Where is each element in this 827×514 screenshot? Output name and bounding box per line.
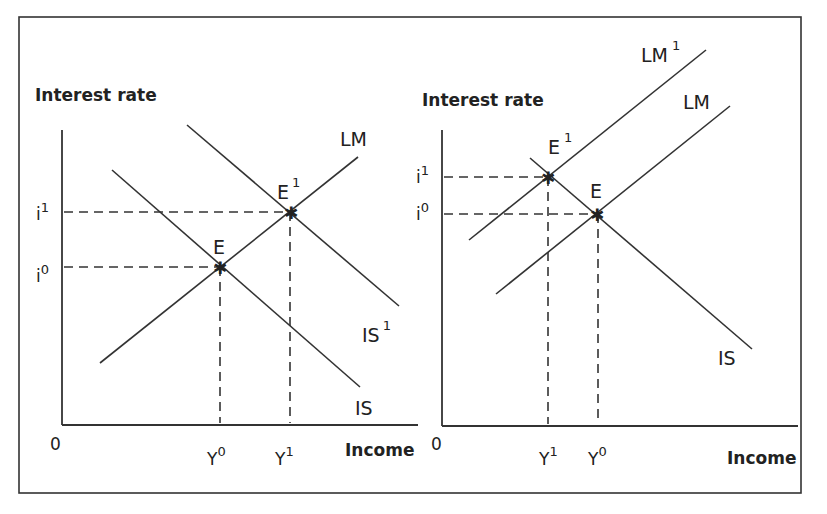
right-is-label: IS (718, 347, 736, 369)
left-x-axis-title: Income (345, 440, 414, 460)
left-origin-label: 0 (50, 434, 61, 454)
left-xtick-y1: Y1 (274, 444, 294, 469)
right-lm-curve (496, 106, 730, 294)
left-point-e-label: E (213, 236, 225, 258)
right-is-curve (530, 158, 752, 349)
right-ytick-i1: i1 (416, 163, 429, 187)
right-y-axis-title: Interest rate (422, 90, 544, 110)
left-panel: Interest rate 0 Income ✱ ✱ i1 i0 Y0 Y1 L… (35, 85, 418, 469)
left-lm-label: LM (340, 128, 367, 150)
left-ytick-i1: i1 (36, 200, 49, 224)
is-lm-diagram: Interest rate 0 Income ✱ ✱ i1 i0 Y0 Y1 L… (0, 0, 827, 514)
right-lm-label: LM (683, 91, 710, 113)
right-point-e1-label: E1 (548, 130, 572, 158)
right-origin-label: 0 (431, 434, 442, 454)
right-xtick-y0: Y0 (587, 444, 607, 469)
left-e-marker-icon: ✱ (213, 258, 227, 278)
right-x-axis-title: Income (727, 448, 796, 468)
right-e-marker-icon: ✱ (590, 205, 604, 225)
right-lm1-label: LM1 (641, 38, 680, 66)
left-y-axis-title: Interest rate (35, 85, 157, 105)
left-ytick-i0: i0 (36, 262, 49, 286)
left-point-e1-label: E1 (277, 175, 300, 203)
left-is-label: IS (355, 397, 373, 419)
left-e1-marker-icon: ✱ (284, 203, 298, 223)
left-is-curve (112, 170, 360, 387)
right-ytick-i0: i0 (416, 200, 429, 224)
left-is1-label: IS1 (362, 318, 391, 346)
right-xtick-y1: Y1 (538, 444, 558, 469)
right-panel: Interest rate 0 Income ✱ ✱ i1 i0 Y1 Y0 L… (416, 38, 798, 469)
right-e1-marker-icon: ✱ (541, 168, 555, 188)
left-lm-curve (100, 157, 358, 363)
left-xtick-y0: Y0 (206, 444, 226, 469)
right-lm1-curve (469, 50, 706, 240)
right-point-e-label: E (590, 180, 602, 202)
